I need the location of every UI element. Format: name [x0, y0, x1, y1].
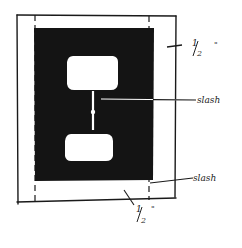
top-opening: [67, 56, 118, 90]
bottom-opening: [65, 134, 113, 161]
label-top-dimension: 1 2 ": [192, 38, 218, 58]
label-slash-bottom: slash: [193, 173, 216, 183]
leader-bottom-dimension: [124, 190, 134, 205]
top-dim-den: 2: [196, 49, 202, 58]
label-slash-center: slash: [197, 95, 220, 105]
bottom-dim-den: 2: [140, 216, 146, 225]
plate-diagram: 1 2 " slash slash 1 2 ": [0, 0, 242, 248]
bottom-dim-mark: ": [151, 204, 155, 213]
leader-top-dimension: [167, 45, 182, 47]
leader-slash-bottom: [150, 178, 193, 183]
top-dim-mark: ": [214, 40, 218, 49]
slash-dot: [91, 110, 95, 114]
label-bottom-dimension: 1 2 ": [136, 204, 155, 225]
